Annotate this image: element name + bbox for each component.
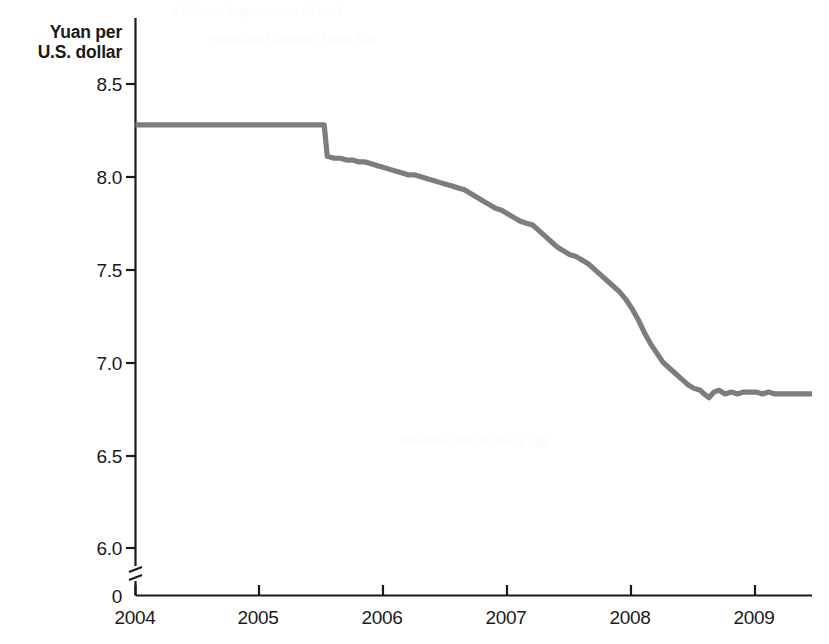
data-series-line-yuan-per-usd: [136, 125, 813, 398]
x-axis-ticks: [136, 585, 756, 595]
exchange-rate-chart-figure: a fainter impression of text showing thr…: [0, 0, 829, 644]
chart-plot-area: [0, 0, 829, 644]
